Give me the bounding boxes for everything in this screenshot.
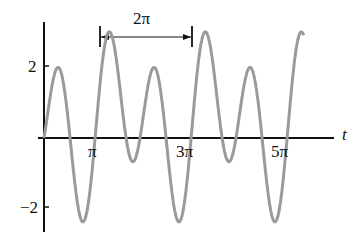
period-label: 2π bbox=[133, 10, 150, 27]
x-tick-label-pi: π bbox=[88, 143, 97, 160]
x-axis-label: t bbox=[342, 126, 347, 143]
x-tick-label-5pi: 5π bbox=[271, 143, 288, 160]
chart-canvas bbox=[0, 0, 359, 243]
signal-curve bbox=[44, 32, 304, 222]
x-tick-label-3pi: 3π bbox=[176, 143, 193, 160]
y-tick-label-neg2: −2 bbox=[20, 199, 38, 216]
y-tick-label-2: 2 bbox=[28, 58, 37, 75]
